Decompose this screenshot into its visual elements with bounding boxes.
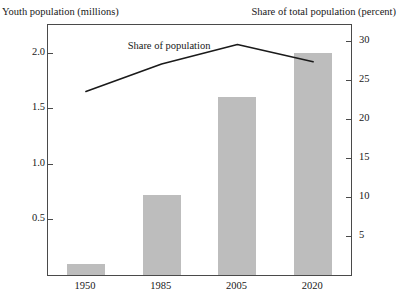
right-tick-15 (346, 158, 351, 159)
left-tick-label-2.0: 2.0 (32, 46, 45, 57)
right-tick-30 (346, 41, 351, 42)
right-tick-label-5: 5 (359, 229, 364, 240)
category-label-1950: 1950 (57, 280, 113, 292)
right-tick-label-25: 25 (359, 73, 370, 84)
left-axis-caption: Youth population (millions) (2, 6, 119, 18)
category-label-2005: 2005 (208, 280, 264, 292)
left-tick-1.5 (48, 108, 53, 109)
right-tick-label-10: 10 (359, 190, 370, 201)
right-tick-10 (346, 197, 351, 198)
plot-inner: Share of population (48, 25, 351, 275)
right-tick-5 (346, 236, 351, 237)
plot-area: Share of population (47, 24, 352, 276)
right-tick-25 (346, 80, 351, 81)
right-tick-label-20: 20 (359, 112, 370, 123)
left-tick-0.5 (48, 219, 53, 220)
right-tick-20 (346, 119, 351, 120)
line-series-share-of-population (48, 25, 351, 275)
left-tick-label-1.5: 1.5 (32, 101, 45, 112)
category-label-1985: 1985 (133, 280, 189, 292)
right-tick-label-15: 15 (359, 151, 370, 162)
right-tick-label-30: 30 (359, 34, 370, 45)
left-tick-label-1.0: 1.0 (32, 157, 45, 168)
chart-figure: Youth population (millions) Share of tot… (0, 0, 398, 302)
right-axis-caption: Share of total population (percent) (251, 6, 396, 18)
category-label-2020: 2020 (284, 280, 340, 292)
left-tick-2.0 (48, 53, 53, 54)
left-tick-1.0 (48, 164, 53, 165)
line-series-annotation: Share of population (128, 40, 211, 52)
left-tick-label-0.5: 0.5 (32, 212, 45, 223)
